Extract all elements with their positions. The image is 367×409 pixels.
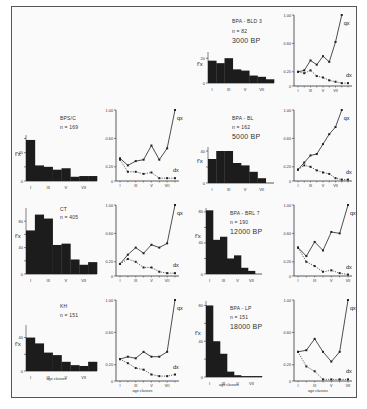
svg-text:40: 40 xyxy=(201,149,206,154)
svg-text:f'x: f'x xyxy=(15,151,21,157)
svg-text:VII: VII xyxy=(249,381,254,386)
panel-date: 5000 BP xyxy=(232,133,260,140)
svg-text:0.60: 0.60 xyxy=(106,137,113,141)
panel-name: BPA - BLD 3 xyxy=(232,18,262,24)
svg-text:V: V xyxy=(244,187,247,192)
svg-text:0: 0 xyxy=(111,180,113,184)
svg-text:0.60: 0.60 xyxy=(284,42,291,46)
svg-text:I: I xyxy=(119,279,120,283)
panel-name: KH xyxy=(60,303,67,309)
svg-text:0: 0 xyxy=(21,369,24,374)
svg-text:f'x: f'x xyxy=(195,233,201,239)
qx-dx-plot: 00.200.601.00IIIIVVIIqxdx xyxy=(100,105,185,193)
svg-text:0.20: 0.20 xyxy=(106,165,113,169)
svg-text:I: I xyxy=(212,187,213,192)
svg-text:1.00: 1.00 xyxy=(106,299,113,303)
svg-text:qx: qx xyxy=(344,115,350,121)
svg-text:dx: dx xyxy=(173,167,179,173)
svg-text:1.00: 1.00 xyxy=(284,299,291,303)
panel-n: n = 169 xyxy=(60,124,78,130)
svg-text:VII: VII xyxy=(346,384,351,388)
svg-text:1.00: 1.00 xyxy=(284,109,291,113)
svg-text:VII: VII xyxy=(165,384,170,388)
svg-text:VII: VII xyxy=(81,185,86,190)
svg-text:qx: qx xyxy=(177,115,183,121)
svg-text:f'x: f'x xyxy=(197,158,203,164)
svg-text:1.00: 1.00 xyxy=(106,109,113,113)
histogram: 040IIIIVVIIf'xage classes xyxy=(14,321,99,381)
svg-text:I: I xyxy=(30,375,31,380)
svg-text:III: III xyxy=(309,89,312,93)
svg-text:VII: VII xyxy=(259,187,264,192)
qx-dx-plot: 00.200.601.00IIIIVVIIqxdxage classes xyxy=(100,295,185,393)
qx-dx-plot: 00.200.601.00IIIIVVIIqxdx xyxy=(278,200,358,288)
svg-text:V: V xyxy=(150,384,153,388)
histogram: 040IIIIVVIIf'x xyxy=(196,143,276,193)
svg-text:0.60: 0.60 xyxy=(106,232,113,236)
svg-text:I: I xyxy=(297,279,298,283)
svg-text:0.20: 0.20 xyxy=(284,260,291,264)
svg-text:40: 40 xyxy=(19,245,24,250)
svg-text:0.20: 0.20 xyxy=(106,363,113,367)
svg-text:f'x: f'x xyxy=(15,233,21,239)
svg-text:I: I xyxy=(119,384,120,388)
svg-text:VII: VII xyxy=(333,89,338,93)
svg-text:age classes: age classes xyxy=(132,389,152,393)
svg-text:III: III xyxy=(134,184,137,188)
svg-text:age classes: age classes xyxy=(219,383,239,387)
histogram: 020IIIIVVIIf'x xyxy=(196,48,276,93)
svg-text:VII: VII xyxy=(346,279,351,283)
svg-text:V: V xyxy=(65,185,68,190)
svg-text:III: III xyxy=(134,279,137,283)
svg-text:1.00: 1.00 xyxy=(284,204,291,208)
panel-n: n = 162 xyxy=(232,124,250,130)
svg-text:III: III xyxy=(47,185,50,190)
histogram: 04080IIIIVVIIf'x xyxy=(14,204,99,284)
svg-text:III: III xyxy=(313,384,316,388)
svg-text:0.60: 0.60 xyxy=(284,331,291,335)
svg-text:qx: qx xyxy=(177,305,183,311)
qx-dx-plot: 00.200.601.00IIIIVVIIqxdx xyxy=(278,10,358,98)
svg-text:age classes: age classes xyxy=(308,389,328,393)
panel-n: n = 151 xyxy=(60,312,78,318)
svg-text:0.60: 0.60 xyxy=(106,331,113,335)
svg-text:0: 0 xyxy=(21,272,24,277)
svg-text:I: I xyxy=(30,185,31,190)
panel-bpa-bl: BPA - BL n = 162 5000 BP 040IIIIVVIIf'x … xyxy=(190,103,360,193)
svg-text:V: V xyxy=(150,184,153,188)
svg-text:0: 0 xyxy=(201,375,204,380)
svg-text:0.20: 0.20 xyxy=(284,165,291,169)
svg-text:0: 0 xyxy=(289,180,291,184)
svg-text:1.00: 1.00 xyxy=(106,204,113,208)
qx-dx-plot: 00.200.601.00IIIIVVIIqxdx xyxy=(100,200,185,288)
svg-text:age classes: age classes xyxy=(46,377,66,381)
svg-text:0: 0 xyxy=(289,85,291,89)
svg-text:VII: VII xyxy=(81,375,86,380)
svg-text:VII: VII xyxy=(81,278,86,283)
panel-bpa-lp: BPA - LP n = 151 18000 BP 04080IIIIVVIIf… xyxy=(190,293,360,395)
svg-text:0: 0 xyxy=(111,380,113,384)
svg-text:I: I xyxy=(209,381,210,386)
svg-text:III: III xyxy=(313,279,316,283)
svg-text:dx: dx xyxy=(346,264,352,270)
svg-text:III: III xyxy=(309,184,312,188)
svg-text:I: I xyxy=(30,278,31,283)
panel-name: BPS/C xyxy=(60,115,76,121)
svg-text:0: 0 xyxy=(201,272,204,277)
svg-text:0.60: 0.60 xyxy=(284,137,291,141)
svg-text:III: III xyxy=(227,187,230,192)
panel-bps-c: BPS/C n = 169 040IIIIVVIIf'x 00.200.601.… xyxy=(4,103,184,193)
panel-n: n = 82 xyxy=(232,28,247,34)
svg-text:dx: dx xyxy=(173,364,179,370)
svg-text:dx: dx xyxy=(346,368,352,374)
svg-text:40: 40 xyxy=(199,240,204,245)
svg-text:V: V xyxy=(322,184,325,188)
svg-text:0.20: 0.20 xyxy=(106,260,113,264)
svg-text:V: V xyxy=(236,278,239,283)
svg-text:I: I xyxy=(297,184,298,188)
svg-text:VII: VII xyxy=(165,279,170,283)
svg-text:40: 40 xyxy=(19,335,24,340)
svg-text:I: I xyxy=(209,278,210,283)
svg-text:dx: dx xyxy=(346,169,352,175)
svg-text:1.00: 1.00 xyxy=(284,14,291,18)
